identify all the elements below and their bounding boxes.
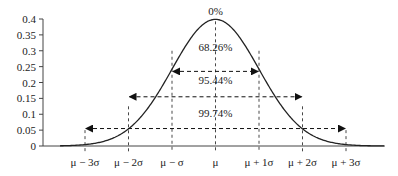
y-tick-label: 0.4	[22, 13, 36, 25]
x-tick-label: μ + 1σ	[244, 156, 273, 168]
normal-distribution-chart: 00.050.10.150.20.250.30.350.4μ − 3σμ − 2…	[0, 0, 398, 176]
percent-label: 95.44%	[199, 74, 233, 86]
y-tick-label: 0.35	[17, 29, 37, 41]
x-tick-label: μ − 3σ	[70, 156, 99, 168]
percent-label: 99.74%	[199, 107, 233, 119]
y-tick-label: 0	[31, 140, 37, 152]
y-tick-label: 0.25	[17, 61, 37, 73]
x-tick-label: μ	[213, 156, 219, 168]
y-tick-label: 0.15	[17, 92, 37, 104]
y-tick-label: 0.3	[22, 45, 36, 57]
peak-label: 0%	[208, 5, 223, 17]
y-tick-label: 0.05	[17, 124, 37, 136]
x-tick-label: μ + 2σ	[288, 156, 317, 168]
x-tick-label: μ − 2σ	[114, 156, 143, 168]
x-tick-label: μ − σ	[160, 156, 184, 168]
percent-label: 68.26%	[199, 41, 233, 53]
x-tick-label: μ + 3σ	[331, 156, 360, 168]
y-tick-label: 0.1	[22, 108, 36, 120]
y-tick-label: 0.2	[22, 77, 36, 89]
